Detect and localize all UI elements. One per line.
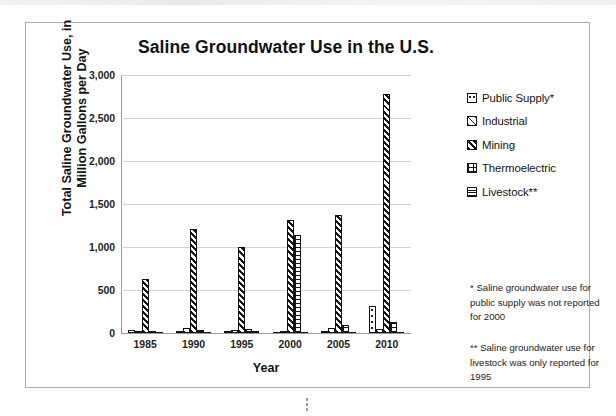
bar-group-2010: [363, 75, 411, 333]
legend-item-livestock[interactable]: Livestock**: [467, 185, 602, 198]
bar-industrial-2000: [280, 331, 287, 333]
legend-label-livestock: Livestock**: [482, 186, 537, 198]
legend-item-mining[interactable]: Mining: [467, 138, 602, 151]
y-tick-label-1000: 1,000: [89, 242, 115, 253]
y-tick-label-3000: 3,000: [89, 70, 115, 81]
x-tick-label-1990: 1990: [182, 339, 205, 350]
bar-industrial-1995: [231, 330, 238, 333]
x-tick-label-2005: 2005: [327, 339, 350, 350]
bar-public-2010: [369, 306, 376, 333]
bar-public-1995: [224, 331, 231, 333]
bars-layer: [121, 75, 411, 333]
bar-mining-1995: [238, 247, 245, 333]
bar-mining-2005: [335, 215, 342, 333]
bar-mining-1985: [142, 279, 149, 333]
bar-mining-1990: [190, 229, 197, 333]
x-tick-label-1985: 1985: [134, 339, 157, 350]
bar-group-1995: [218, 75, 266, 333]
x-axis-label: Year: [121, 361, 411, 375]
y-tick-label-500: 500: [98, 285, 115, 296]
plot-area: 05001,0001,5002,0002,5003,000: [121, 75, 411, 333]
bar-thermo-1990: [197, 330, 204, 333]
bar-public-1985: [128, 330, 135, 333]
legend-swatch-industrial-icon: [467, 116, 477, 126]
bar-group-2005: [314, 75, 362, 333]
y-tick-label-2000: 2,000: [89, 156, 115, 167]
page-background: Saline Groundwater Use in the U.S. Total…: [0, 0, 616, 416]
legend-label-public: Public Supply*: [482, 92, 554, 104]
y-axis-label: Total Saline Groundwater Use, in Million…: [58, 3, 92, 233]
bar-livestock-2000: [301, 332, 308, 333]
bar-industrial-2010: [376, 329, 383, 333]
legend-label-industrial: Industrial: [482, 115, 527, 127]
legend-item-thermo[interactable]: Thermoelectric: [467, 162, 602, 175]
bar-public-1990: [176, 331, 183, 333]
gridline-0: [121, 333, 411, 334]
chart-frame: Saline Groundwater Use in the U.S. Total…: [25, 22, 590, 388]
bar-livestock-1985: [156, 332, 163, 333]
chart-legend: Public Supply*IndustrialMiningThermoelec…: [467, 91, 602, 209]
bar-public-2005: [321, 331, 328, 333]
bar-thermo-2010: [390, 322, 397, 333]
y-tick-label-1500: 1,500: [89, 199, 115, 210]
bar-public-2000: [273, 332, 280, 333]
x-axis-ticks: 198519901995200020052010: [121, 339, 411, 355]
legend-item-industrial[interactable]: Industrial: [467, 115, 602, 128]
x-tick-label-2000: 2000: [279, 339, 302, 350]
bar-livestock-2010: [397, 332, 404, 333]
bar-mining-2000: [287, 220, 294, 333]
bar-group-2000: [266, 75, 314, 333]
page-crop-mark: [306, 398, 308, 411]
legend-swatch-livestock-icon: [467, 187, 477, 197]
legend-label-mining: Mining: [482, 139, 515, 151]
x-tick-label-1995: 1995: [230, 339, 253, 350]
legend-swatch-mining-icon: [467, 140, 477, 150]
bar-group-1985: [121, 75, 169, 333]
y-tick-label-2500: 2,500: [89, 113, 115, 124]
scan-artifact-top: [0, 0, 616, 5]
legend-swatch-thermo-icon: [467, 163, 477, 173]
footnote-public-supply: * Saline groundwater use for public supp…: [470, 281, 610, 325]
bar-industrial-1985: [135, 331, 142, 333]
bar-mining-2010: [383, 94, 390, 333]
bar-thermo-1985: [149, 331, 156, 333]
chart-title: Saline Groundwater Use in the U.S.: [86, 37, 486, 58]
legend-item-public[interactable]: Public Supply*: [467, 91, 602, 104]
bar-industrial-1990: [183, 328, 190, 333]
bar-group-1990: [169, 75, 217, 333]
y-axis-label-line1: Total Saline Groundwater Use, in: [60, 20, 75, 216]
bar-industrial-2005: [328, 328, 335, 333]
bar-livestock-1990: [204, 332, 211, 333]
legend-label-thermo: Thermoelectric: [482, 162, 556, 174]
bar-livestock-2005: [349, 332, 356, 333]
legend-swatch-public-icon: [467, 93, 477, 103]
bar-thermo-2000: [294, 235, 301, 333]
x-tick-label-2010: 2010: [375, 339, 398, 350]
y-tick-label-0: 0: [109, 328, 115, 339]
bar-livestock-1995: [252, 331, 259, 333]
footnote-livestock: ** Saline groundwater use for livestock …: [470, 341, 610, 385]
bar-thermo-2005: [342, 325, 349, 333]
bar-thermo-1995: [245, 329, 252, 333]
